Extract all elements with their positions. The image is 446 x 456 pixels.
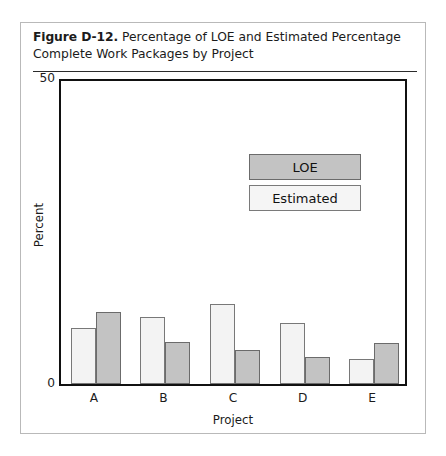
bar-estimated-c bbox=[210, 304, 235, 384]
x-axis-tick-e: E bbox=[352, 391, 392, 405]
y-axis-tick-top: 50 bbox=[25, 71, 55, 85]
y-axis-tick-bottom: 0 bbox=[25, 376, 55, 390]
bar-estimated-a bbox=[71, 328, 96, 384]
figure-number: Figure D-12. bbox=[33, 30, 118, 44]
caption-divider bbox=[33, 71, 417, 72]
x-axis-title: Project bbox=[59, 413, 407, 427]
x-axis-tick-a: A bbox=[74, 391, 114, 405]
x-axis-tick-d: D bbox=[283, 391, 323, 405]
figure-caption: Figure D-12. Percentage of LOE and Estim… bbox=[33, 29, 417, 62]
legend-key-estimated: Estimated bbox=[249, 185, 361, 211]
y-axis-title: Percent bbox=[32, 185, 46, 265]
bar-loe-c bbox=[235, 350, 260, 384]
x-axis-tick-c: C bbox=[213, 391, 253, 405]
plot-area bbox=[61, 81, 405, 384]
bar-estimated-e bbox=[349, 359, 374, 384]
bar-loe-b bbox=[165, 342, 190, 384]
legend-label-estimated: Estimated bbox=[272, 191, 338, 206]
bar-loe-d bbox=[305, 357, 330, 384]
figure-container: Figure D-12. Percentage of LOE and Estim… bbox=[20, 22, 426, 434]
bar-loe-a bbox=[96, 312, 121, 384]
legend-label-loe: LOE bbox=[292, 160, 317, 175]
chart-legend: LOE Estimated bbox=[249, 154, 361, 211]
legend-key-loe: LOE bbox=[249, 154, 361, 180]
plot-frame: LOE Estimated bbox=[59, 79, 407, 386]
bar-loe-e bbox=[374, 343, 399, 384]
x-axis-tick-b: B bbox=[143, 391, 183, 405]
bar-estimated-b bbox=[140, 317, 165, 384]
bar-estimated-d bbox=[280, 323, 305, 384]
